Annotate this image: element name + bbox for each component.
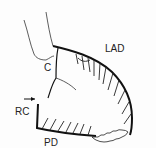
heart-outline-drawing	[0, 0, 156, 148]
label-c: C	[44, 63, 51, 73]
coronary-diagram: C LAD RC PD	[0, 0, 156, 148]
label-rc: RC	[15, 107, 29, 117]
label-pd: PD	[44, 138, 58, 148]
lesion-shape	[92, 130, 128, 142]
label-lad: LAD	[105, 44, 124, 54]
